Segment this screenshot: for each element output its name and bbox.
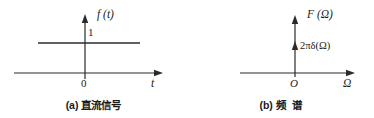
origin-label: O (290, 78, 298, 89)
panel-spectrum: F (Ω) 2πδ(Ω) O Ω (b) 频 谱 (187, 0, 374, 118)
amplitude-value-label: 1 (88, 27, 94, 38)
f-axis-arrowhead (82, 14, 88, 23)
omega-axis-arrowhead (346, 70, 355, 77)
origin-label: 0 (81, 78, 87, 89)
impulse-arrowhead (292, 41, 298, 50)
t-axis-arrowhead (154, 70, 163, 77)
impulse-weight-label: 2πδ(Ω) (300, 41, 330, 52)
omega-axis-label: Ω (343, 78, 351, 90)
panel-dc-signal: f (t) 1 0 t (a) 直流信号 (0, 0, 187, 118)
figure-container: f (t) 1 0 t (a) 直流信号 F (Ω) 2πδ(Ω) O Ω (b… (0, 0, 374, 118)
f-axis-label: f (t) (97, 9, 114, 21)
t-axis-label: t (151, 78, 154, 90)
F-axis-arrowhead (292, 15, 298, 24)
panel-b-caption: (b) 频 谱 (187, 100, 374, 111)
F-axis-label: F (Ω) (307, 9, 333, 21)
panel-a-caption: (a) 直流信号 (0, 100, 187, 111)
